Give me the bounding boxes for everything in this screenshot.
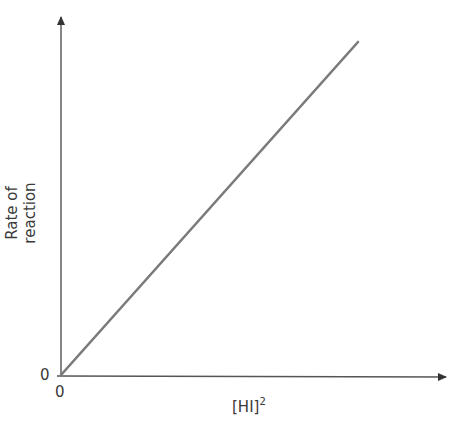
x-axis-label-base: [HI] [232, 398, 259, 416]
x-tick-zero: 0 [55, 383, 65, 401]
y-axis-label: Rate of reaction [3, 158, 39, 268]
y-tick-zero: 0 [40, 366, 50, 384]
chart-canvas [0, 0, 461, 436]
x-axis [57, 376, 446, 377]
x-axis-label: [HI]2 [232, 396, 266, 416]
x-axis-label-superscript: 2 [259, 396, 265, 407]
rate-line [61, 42, 358, 375]
